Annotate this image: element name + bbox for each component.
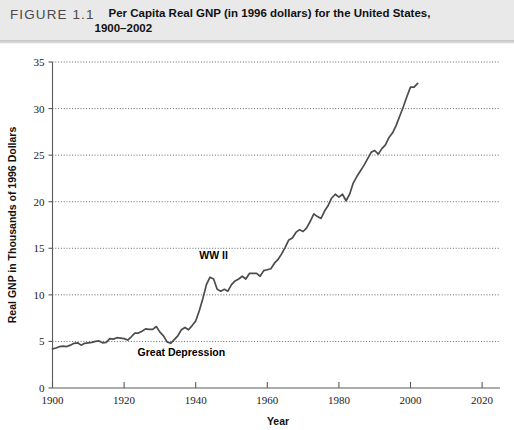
x-axis-title: Year xyxy=(267,415,289,427)
y-tick-label-5: 5 xyxy=(39,335,45,347)
y-axis-ticks-group: 05101520253035 xyxy=(34,56,53,394)
y-tick-label-15: 15 xyxy=(34,242,46,254)
y-tick-label-10: 10 xyxy=(34,289,46,301)
y-tick-label-35: 35 xyxy=(34,56,46,68)
annotation-great-depression: Great Depression xyxy=(138,346,226,358)
x-tick-label-1980: 1980 xyxy=(328,394,351,406)
y-tick-label-20: 20 xyxy=(34,196,46,208)
figure-header: FIGURE 1.1 Per Capita Real GNP (in 1996 … xyxy=(0,0,514,40)
y-axis-title: Real GNP in Thousands of 1996 Dollars xyxy=(6,127,18,324)
figure-caption-line-2: 1900–2002 xyxy=(95,21,431,36)
figure-caption-line-1: Per Capita Real GNP (in 1996 dollars) fo… xyxy=(109,6,431,21)
chart-region: 05101520253035 1900192019401960198020002… xyxy=(0,46,514,430)
y-tick-label-30: 30 xyxy=(34,103,46,115)
gridlines-group xyxy=(53,62,501,341)
x-axis-ticks-group: 1900192019401960198020002020 xyxy=(42,382,494,406)
figure-number-label: FIGURE 1.1 xyxy=(10,6,95,22)
header-divider-rule xyxy=(0,40,514,44)
y-tick-label-25: 25 xyxy=(34,149,46,161)
x-tick-label-1900: 1900 xyxy=(42,394,65,406)
x-tick-label-1940: 1940 xyxy=(185,394,208,406)
figure-header-inner: FIGURE 1.1 Per Capita Real GNP (in 1996 … xyxy=(0,0,514,35)
annotation-ww2: WW II xyxy=(199,249,228,261)
x-tick-label-2020: 2020 xyxy=(471,394,494,406)
figure-caption-block: Per Capita Real GNP (in 1996 dollars) fo… xyxy=(95,6,431,35)
gnp-line-chart: 05101520253035 1900192019401960198020002… xyxy=(0,46,514,430)
x-tick-label-2000: 2000 xyxy=(400,394,423,406)
y-tick-label-0: 0 xyxy=(39,382,45,394)
x-tick-label-1920: 1920 xyxy=(113,394,136,406)
x-tick-label-1960: 1960 xyxy=(256,394,279,406)
gnp-series-line xyxy=(53,83,418,348)
